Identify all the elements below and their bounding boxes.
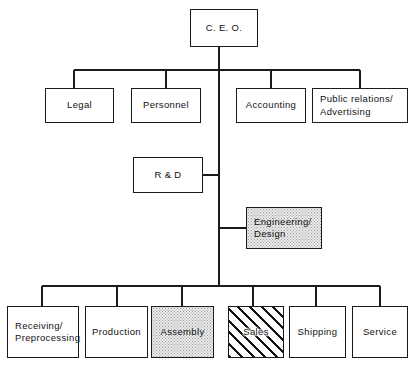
node-receiving-preprocessing-label: Receiving/ Preprocessing [15,320,80,345]
node-legal[interactable]: Legal [45,88,114,123]
node-production[interactable]: Production [85,306,148,358]
node-personnel[interactable]: Personnel [131,88,201,123]
node-service[interactable]: Service [352,306,408,358]
node-accounting[interactable]: Accounting [236,88,306,123]
node-assembly[interactable]: Assembly [151,306,214,358]
node-r-and-d-label: R & D [154,169,181,182]
node-r-and-d[interactable]: R & D [133,157,203,193]
node-sales-label: Sales [243,326,269,339]
node-personnel-label: Personnel [143,99,189,112]
node-shipping[interactable]: Shipping [289,306,346,358]
node-assembly-label: Assembly [161,326,205,339]
node-production-label: Production [92,326,141,339]
node-service-label: Service [363,326,397,339]
node-ceo[interactable]: C. E. O. [190,9,258,47]
node-public-relations-advertising-label: Public relations/ Advertising [320,93,393,118]
node-receiving-preprocessing[interactable]: Receiving/ Preprocessing [7,306,79,358]
org-chart: C. E. O. Legal Personnel Accounting Publ… [0,0,413,371]
node-engineering-design[interactable]: Engineering/ Design [246,207,322,249]
node-shipping-label: Shipping [298,326,338,339]
node-ceo-label: C. E. O. [206,22,243,35]
node-accounting-label: Accounting [246,99,297,112]
node-public-relations-advertising[interactable]: Public relations/ Advertising [312,88,408,123]
node-legal-label: Legal [67,99,92,112]
node-engineering-design-label: Engineering/ Design [254,216,312,241]
node-sales[interactable]: Sales [228,306,284,358]
